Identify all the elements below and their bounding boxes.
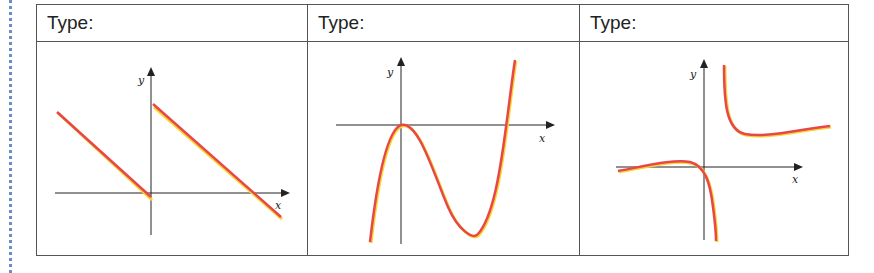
graph-type-table: Type: y x Type: [36, 4, 849, 256]
graph-cell-1: Type: y x [37, 5, 307, 255]
dotted-margin-line [9, 0, 12, 273]
graph-area-2: y x [308, 42, 579, 256]
svg-text:y: y [137, 74, 145, 87]
cubic-graph: y x [308, 42, 580, 256]
svg-text:y: y [689, 68, 697, 81]
type-label-1: Type: [37, 5, 307, 42]
svg-text:y: y [386, 66, 394, 79]
graph-cell-3: Type: y x [579, 5, 849, 255]
piecewise-linear-graph: y x [37, 42, 307, 256]
curve [370, 60, 516, 243]
svg-text:x: x [792, 173, 799, 186]
svg-text:x: x [539, 132, 546, 145]
rational-graph: y x [580, 42, 850, 256]
curve [618, 65, 831, 242]
svg-text:x: x [275, 199, 282, 212]
curve [57, 104, 282, 219]
type-label-3: Type: [580, 5, 849, 42]
graph-cell-2: Type: y x [307, 5, 579, 255]
graph-area-3: y x [580, 42, 849, 256]
graph-area-1: y x [37, 42, 307, 256]
type-label-2: Type: [308, 5, 579, 42]
